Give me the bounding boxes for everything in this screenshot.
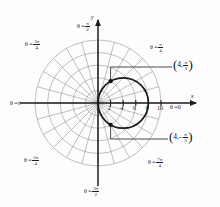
callout-point-4-negative-pi-over-3: (4,–π3) [169,132,193,143]
x-tick-label-4: 4 [121,105,124,111]
fraction-3pi-over-2: 3π2 [92,186,99,197]
fraction-pi-over-4: π4 [158,42,163,53]
angle-value-0: 0 [178,104,181,110]
fraction-denominator: 4 [33,44,40,50]
fraction-3pi-over-4: 3π4 [33,39,40,50]
angle-label-theta-pi-over-2: θ =π2 [77,21,90,32]
theta-equals-text: θ = [148,159,156,165]
x-tick-label-2: 2 [108,105,111,111]
fraction-pi-over-3: π3 [183,60,188,71]
data-point-upper [109,79,113,83]
angle-label-theta-3pi-over-4: θ =3π4 [25,39,41,50]
x-tick-label-8: 8 [146,105,149,111]
cartesian-axes [20,20,196,186]
fraction-pi-over-2: π2 [85,21,90,32]
angle-label-theta-pi-over-4: θ =π4 [150,42,163,53]
fraction-denominator: 4 [32,160,39,166]
fraction-numerator: 3π [33,39,40,44]
fraction-numerator: 7π [156,157,163,162]
angle-label-theta-0: θ =0 [170,104,181,110]
paren-close: ) [189,57,193,72]
theta-equals-text: θ = [25,41,33,47]
y-axis-label: y [91,14,94,20]
fraction-numerator: 3π [92,186,99,191]
fraction-denominator: 4 [158,47,163,53]
data-point-lower [109,123,113,127]
callout-point-4-pi-over-3: (4,π3) [173,60,193,71]
polar-plot-figure: 2 4 6 8 10 x y θ =0 θ =π4 θ =π2 θ =3π4 θ… [0,0,220,207]
theta-equals-text: θ = [10,100,18,106]
theta-equals-text: θ = [84,188,92,194]
fraction-denominator: 3 [183,65,188,71]
fraction-denominator: 4 [156,162,163,168]
angle-value-pi: π [18,100,21,106]
theta-equals-text: θ = [150,44,158,50]
angle-label-theta-pi: θ =π [10,100,21,106]
x-tick-label-6: 6 [133,105,136,111]
angle-label-theta-3pi-over-2: θ =3π2 [84,186,100,197]
polar-plot-canvas [0,0,220,207]
paren-close: ) [188,129,192,144]
x-axis-label: x [191,93,194,99]
angle-label-theta-7pi-over-4: θ =7π4 [148,157,164,168]
fraction-denominator: 2 [85,26,90,32]
callout-negative-sign: – [179,132,183,141]
fraction-denominator: 2 [92,191,99,197]
angle-label-theta-5pi-over-4: θ =5π4 [24,155,40,166]
theta-equals-text: θ = [170,104,178,110]
theta-equals-text: θ = [77,23,85,29]
fraction-5pi-over-4: 5π4 [32,155,39,166]
fraction-numerator: 5π [32,155,39,160]
x-tick-label-10: 10 [157,105,163,111]
fraction-7pi-over-4: 7π4 [156,157,163,168]
theta-equals-text: θ = [24,157,32,163]
